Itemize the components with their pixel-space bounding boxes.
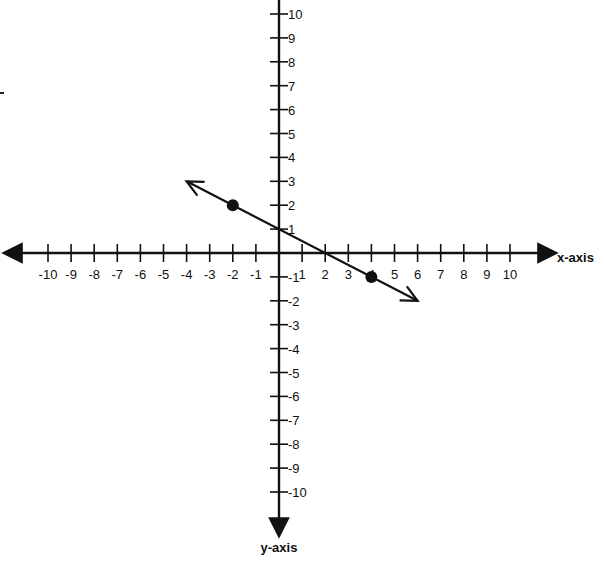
x-tick-label: 7	[437, 267, 444, 282]
y-tick-label: -9	[288, 461, 300, 476]
y-tick-label: -3	[288, 318, 300, 333]
y-axis: 10987654321-1-2-3-4-5-6-7-8-9-10	[270, 0, 307, 528]
x-tick-label: -8	[88, 267, 100, 282]
y-tick-label: -7	[288, 413, 300, 428]
x-tick-label: 6	[414, 267, 421, 282]
x-tick-label: 1	[298, 267, 305, 282]
x-tick-label: -7	[112, 267, 124, 282]
y-tick-label: 4	[288, 150, 295, 165]
y-tick-label: -1	[288, 270, 300, 285]
data-point	[365, 271, 377, 283]
y-tick-label: -6	[288, 389, 300, 404]
x-axis-label: x-axis	[557, 250, 594, 265]
y-tick-label: 8	[288, 55, 295, 70]
y-tick-label: 3	[288, 174, 295, 189]
y-tick-label: -4	[288, 342, 300, 357]
x-tick-label: -1	[250, 267, 262, 282]
line-segment	[187, 181, 418, 300]
coordinate-plane: -10-9-8-7-6-5-4-3-2-112345678910 1098765…	[0, 0, 604, 575]
y-tick-label: -8	[288, 437, 300, 452]
x-tick-label: -6	[135, 267, 147, 282]
data-point	[227, 199, 239, 211]
y-tick-label: 10	[288, 7, 302, 22]
y-tick-label: -2	[288, 294, 300, 309]
x-tick-label: 3	[345, 267, 352, 282]
x-tick-label: 5	[391, 267, 398, 282]
y-tick-label: -10	[288, 485, 307, 500]
x-tick-label: 2	[322, 267, 329, 282]
x-tick-label: -9	[65, 267, 77, 282]
plotted-line	[187, 181, 418, 300]
x-tick-label: 9	[483, 267, 490, 282]
x-tick-label: -3	[204, 267, 216, 282]
x-tick-label: -5	[158, 267, 170, 282]
x-tick-label: 10	[503, 267, 517, 282]
y-tick-label: 7	[288, 79, 295, 94]
y-tick-label: -5	[288, 366, 300, 381]
y-axis-label: y-axis	[261, 540, 298, 555]
x-tick-label: -4	[181, 267, 193, 282]
y-tick-label: 5	[288, 127, 295, 142]
x-tick-label: -2	[227, 267, 239, 282]
y-tick-label: 2	[288, 198, 295, 213]
x-tick-label: 8	[460, 267, 467, 282]
y-tick-label: 9	[288, 31, 295, 46]
y-tick-label: 6	[288, 103, 295, 118]
x-tick-label: -10	[39, 267, 58, 282]
